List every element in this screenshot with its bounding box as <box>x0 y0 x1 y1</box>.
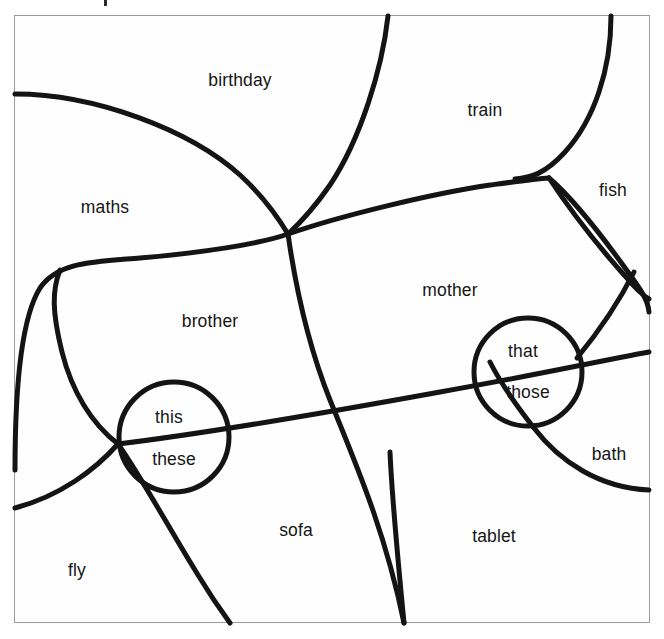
region-label-fish: fish <box>599 180 627 201</box>
region-label-brother: brother <box>182 311 239 332</box>
region-label-birthday: birthday <box>208 70 271 91</box>
circle-label-these: these <box>152 449 196 470</box>
region-label-fly: fly <box>68 560 86 581</box>
region-label-sofa: sofa <box>279 520 313 541</box>
page-artifact-speck <box>104 0 107 6</box>
diagram-frame <box>14 15 650 623</box>
region-label-bath: bath <box>592 444 627 465</box>
diagram-page: maths birthday train fish brother mother… <box>0 0 664 639</box>
circle-label-that: that <box>508 341 538 362</box>
circle-label-those: those <box>506 382 550 403</box>
region-label-maths: maths <box>81 197 129 218</box>
region-label-tablet: tablet <box>472 526 516 547</box>
region-label-mother: mother <box>422 280 477 301</box>
region-label-train: train <box>468 100 503 121</box>
circle-label-this: this <box>155 407 183 428</box>
